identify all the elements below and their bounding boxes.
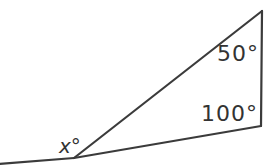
angle-label-bottom-right: 100°: [201, 101, 258, 126]
triangle-hypotenuse-line: [74, 11, 262, 158]
triangle-exterior-angle-figure: 50° 100° x°: [0, 0, 274, 167]
triangle-right-side-line: [261, 11, 262, 126]
base-extension-line: [0, 158, 74, 164]
geometry-diagram: 50° 100° x°: [0, 0, 274, 167]
angle-label-exterior-x: x°: [58, 134, 81, 158]
angle-label-top-right: 50°: [217, 41, 259, 66]
triangle-base-line: [74, 126, 261, 158]
